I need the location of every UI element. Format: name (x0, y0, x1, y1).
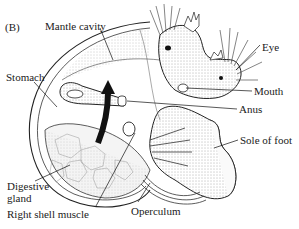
label-anus: Anus (239, 103, 262, 115)
label-operculum: Operculum (131, 205, 180, 217)
label-digestive-gland: Digestive gland (7, 180, 49, 204)
head-body (150, 4, 262, 99)
stomach-intestine (60, 83, 126, 106)
panel-label: (B) (5, 21, 20, 33)
shell-muscle (123, 122, 135, 136)
foot (141, 106, 236, 204)
label-stomach: Stomach (6, 71, 45, 83)
label-mouth: Mouth (254, 85, 283, 97)
label-right-shell-muscle: Right shell muscle (7, 208, 89, 220)
label-sole-of-foot: Sole of foot (240, 134, 292, 146)
label-mantle-cavity: Mantle cavity (45, 20, 106, 32)
label-eye: Eye (262, 41, 279, 53)
